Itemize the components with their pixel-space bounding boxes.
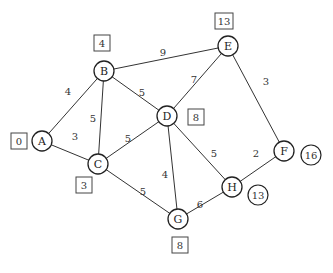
distance-box-a: 0 [11, 133, 27, 149]
distance-circle-h: 13 [248, 185, 268, 205]
distance-box-g: 8 [172, 237, 188, 253]
edge-e-f [228, 46, 284, 151]
edge-weight-label: 2 [253, 148, 259, 159]
node-label: E [224, 40, 232, 53]
edge-weight-label: 5 [125, 133, 131, 144]
edge-d-g [167, 116, 178, 219]
node-b: B [94, 61, 114, 81]
edge-b-c [98, 71, 104, 164]
node-e: E [218, 36, 238, 56]
node-c: C [88, 154, 108, 174]
distance-value: 8 [177, 240, 183, 251]
distance-box-d: 8 [188, 109, 204, 125]
node-label: H [227, 181, 237, 194]
edge-weight-label: 6 [197, 199, 203, 210]
node-d: D [157, 106, 177, 126]
edge-weight-label: 5 [140, 186, 146, 197]
node-label: D [163, 110, 172, 123]
edge-weight-label: 5 [139, 87, 145, 98]
edge-weight-label: 3 [72, 131, 78, 142]
node-f: F [274, 141, 294, 161]
distance-value: 13 [218, 16, 231, 27]
node-label: C [94, 158, 102, 171]
edge-weight-label: 4 [65, 86, 71, 97]
node-label: A [37, 135, 47, 148]
edge-weight-label: 7 [191, 74, 197, 85]
edge-b-d [104, 71, 167, 116]
distance-box-b: 4 [94, 35, 110, 51]
node-label: B [100, 65, 108, 78]
distance-value: 3 [81, 180, 87, 191]
edge-d-h [167, 116, 232, 187]
edge-weight-label: 9 [160, 47, 166, 58]
node-h: H [222, 177, 242, 197]
distance-value: 4 [99, 38, 105, 49]
edge-weight-label: 4 [162, 169, 168, 180]
node-label: F [280, 145, 288, 158]
node-a: A [32, 131, 52, 151]
edge-c-d [98, 116, 167, 164]
distance-value: 13 [252, 190, 265, 201]
distance-value: 16 [305, 150, 318, 161]
edge-weight-label: 5 [90, 113, 96, 124]
edge-weight-label: 3 [263, 76, 269, 87]
edge-weight-label: 5 [211, 148, 217, 159]
node-g: G [168, 209, 188, 229]
distance-box-c: 3 [76, 177, 92, 193]
node-label: G [174, 213, 183, 226]
distance-value: 0 [16, 136, 22, 147]
distance-circle-f: 16 [301, 145, 321, 165]
distance-value: 8 [193, 112, 199, 123]
distance-box-e: 13 [215, 13, 233, 29]
graph-diagram: 4355955745326 ABCDEFGH 0438138 1613 [0, 0, 333, 273]
